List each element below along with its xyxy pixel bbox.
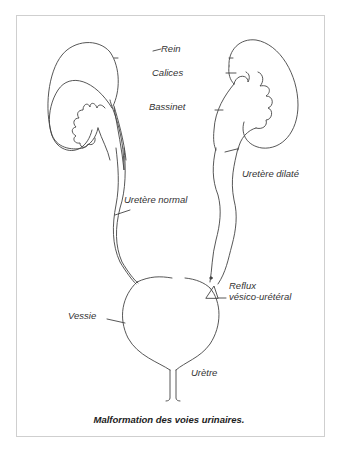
- label-bassinet: Bassinet: [149, 101, 185, 112]
- dilated-ureter-illustration: [210, 148, 238, 284]
- label-rein: Rein: [161, 43, 181, 54]
- leader-lines: [107, 49, 237, 323]
- label-uretre: Urètre: [191, 367, 217, 378]
- label-uretere-normal: Uretère normal: [124, 194, 187, 205]
- label-reflux: Reflux: [229, 280, 256, 291]
- bladder-illustration: [122, 277, 219, 401]
- label-vesico-ureteral: vésico-urétéral: [229, 291, 291, 302]
- right-kidney-illustration: [214, 40, 298, 150]
- figure-caption: Malformation des voies urinaires.: [0, 414, 338, 425]
- label-calices: Calices: [152, 67, 183, 78]
- normal-ureter-illustration: [113, 148, 138, 284]
- label-vessie: Vessie: [68, 310, 96, 321]
- label-uretere-dilate: Uretère dilaté: [242, 168, 299, 179]
- left-kidney-illustration: [48, 43, 126, 170]
